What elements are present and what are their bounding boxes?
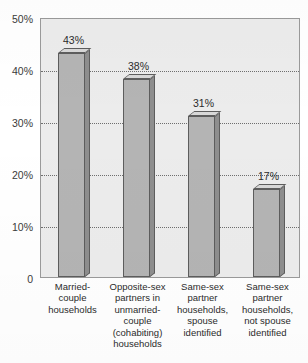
x-axis-category-label: Same-sex partner households, spouse iden… [168,281,237,338]
bar [253,184,285,277]
y-tick-label: 50% [12,13,33,25]
x-axis-category-label: Opposite-sex partners in unmarried- coup… [103,281,172,349]
y-tick-label: 10% [12,221,33,233]
bar-side-face [85,49,90,277]
y-tick-label: 20% [12,169,33,181]
plot-inner: 43%38%31%17% [41,19,299,277]
bar-chart: 50% 40% 30% 20% 10% 0 43%38%31%17% Marri… [0,0,308,363]
y-tick-label: 40% [12,65,33,77]
bar-front-face [58,53,85,277]
bar-side-face [215,112,220,277]
y-axis: 50% 40% 30% 20% 10% 0 [0,18,38,278]
bar [123,74,155,277]
bar-value-label: 43% [48,34,100,46]
bar-value-label: 38% [113,60,165,72]
bar-side-face [150,75,155,277]
x-axis-category-label: Same-sex partner households, not spouse … [233,281,302,338]
plot-area: 43%38%31%17% [40,18,300,278]
bar-front-face [253,189,280,277]
bar-value-label: 31% [178,97,230,109]
bar-value-label: 17% [243,170,295,182]
y-tick-label: 0 [27,273,33,285]
bar-front-face [123,79,150,277]
bar-side-face [280,185,285,277]
x-axis-category-label: Married- couple households [38,281,107,315]
bar-front-face [188,116,215,277]
y-tick-label: 30% [12,117,33,129]
x-axis-labels: Married- couple householdsOpposite-sex p… [40,281,300,363]
bar [58,48,90,277]
bars-layer: 43%38%31%17% [41,19,299,277]
bar [188,111,220,277]
